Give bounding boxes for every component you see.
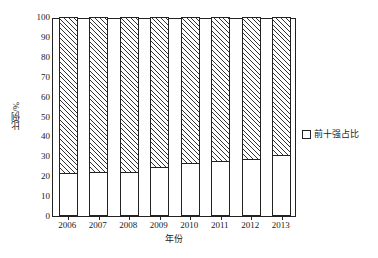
bar-segment-hatched	[120, 17, 139, 172]
bar-stack	[272, 19, 291, 216]
bar-stack	[150, 19, 169, 216]
y-axis-tick-labels: 0102030405060708090100	[22, 0, 50, 258]
y-tick-label: 0	[22, 212, 50, 222]
y-tick-label: 20	[22, 172, 50, 182]
bar-segment-hatched	[211, 17, 230, 161]
y-tick-label: 30	[22, 152, 50, 162]
chart-figure: 比例/% 0102030405060708090100 200620072008…	[0, 0, 378, 258]
y-tick-label: 60	[22, 93, 50, 103]
y-tick-label: 50	[22, 113, 50, 123]
bar-segment-hatched	[181, 17, 200, 163]
bar-segment-top-ten-share	[89, 172, 108, 216]
bar-segment-top-ten-share	[120, 172, 139, 216]
legend-label: 前十强占比	[314, 129, 359, 139]
y-tick-label: 70	[22, 73, 50, 83]
bar-segment-top-ten-share	[242, 159, 261, 216]
legend: 前十强占比	[302, 129, 359, 139]
bar-segment-hatched	[59, 17, 78, 173]
y-axis-title: 比例/%	[9, 84, 23, 148]
bar-segment-hatched	[89, 17, 108, 172]
bar-stack	[181, 19, 200, 216]
y-tick-label: 90	[22, 33, 50, 43]
y-tick-label: 100	[22, 13, 50, 23]
x-tick-label: 2013	[261, 219, 301, 231]
y-tick-label: 80	[22, 53, 50, 63]
legend-swatch-white-square	[302, 130, 311, 139]
bar-stack	[242, 19, 261, 216]
bar-stack	[89, 19, 108, 216]
plot-area	[52, 18, 296, 217]
y-tick-label: 10	[22, 192, 50, 202]
bar-segment-hatched	[272, 17, 291, 155]
bar-stack	[211, 19, 230, 216]
bar-segment-hatched	[242, 17, 261, 159]
bar-segment-top-ten-share	[59, 173, 78, 216]
x-axis-title: 年份	[52, 233, 296, 245]
bar-stack	[59, 19, 78, 216]
bar-segment-top-ten-share	[211, 161, 230, 216]
bar-segment-top-ten-share	[150, 167, 169, 216]
bar-segment-top-ten-share	[181, 163, 200, 216]
x-axis-tick-labels: 20062007200820092010201120122013	[52, 219, 296, 233]
bar-segment-hatched	[150, 17, 169, 167]
bar-segment-top-ten-share	[272, 155, 291, 216]
y-tick-label: 40	[22, 132, 50, 142]
bar-stack	[120, 19, 139, 216]
bar-group	[53, 19, 295, 216]
